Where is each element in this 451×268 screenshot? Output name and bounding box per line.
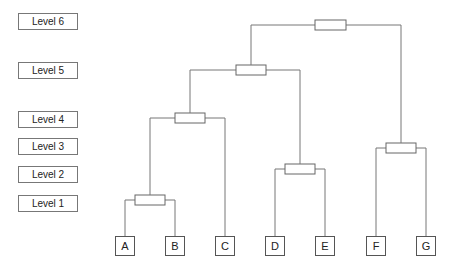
branch-FG	[346, 25, 401, 143]
leaf-F: F	[366, 236, 386, 256]
leaf-C: C	[215, 236, 235, 256]
branch-E	[315, 169, 325, 236]
dendrogram	[0, 0, 451, 268]
branch-D	[275, 169, 285, 236]
leaf-G: G	[416, 236, 436, 256]
branch-ABC	[190, 70, 236, 113]
branch-A	[125, 200, 135, 236]
merge-node-DE	[285, 164, 315, 174]
branch-G	[416, 148, 426, 236]
branch-C	[205, 118, 225, 236]
merge-node-root	[315, 20, 346, 30]
branch-F	[376, 148, 386, 236]
leaf-E: E	[315, 236, 335, 256]
leaf-B: B	[165, 236, 185, 256]
merge-node-ABCDE	[236, 65, 266, 75]
branch-DE	[266, 70, 300, 164]
leaf-A: A	[115, 236, 135, 256]
leaf-D: D	[265, 236, 285, 256]
branch-B	[165, 200, 175, 236]
branch-ABCDE	[251, 25, 315, 65]
merge-node-AB	[135, 195, 165, 205]
merge-node-ABC	[175, 113, 205, 123]
merge-node-FG	[386, 143, 416, 153]
branch-AB	[150, 118, 175, 195]
